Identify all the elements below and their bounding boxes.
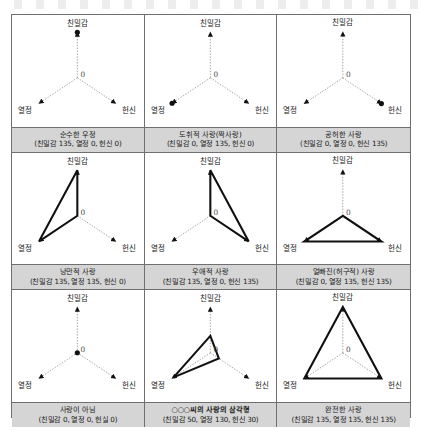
love-type-caption: 순수한 우정(친밀감 135, 열정 0, 헌신 0) <box>12 127 144 152</box>
axis-label-commitment: 헌신 <box>255 243 269 252</box>
love-triangle-diagram: 친밀감열정헌신0 <box>12 290 144 402</box>
love-type-caption: 도취적 사랑(짝사랑)(친밀감 0, 열정 135, 헌신 0) <box>145 127 277 152</box>
origin-label: 0 <box>213 70 218 79</box>
axis-label-intimacy: 친밀감 <box>333 155 354 165</box>
love-triangle-diagram: 친밀감열정헌신0 <box>277 153 410 265</box>
love-triangle-diagram: 친밀감열정헌신0 <box>145 15 277 127</box>
axis-label-passion: 열정 <box>284 243 298 253</box>
love-type-caption: 얼빠진(허구적) 사랑(친밀감 0, 열정 135, 헌신 135) <box>277 264 410 289</box>
love-type-cell: 친밀감열정헌신0순수한 우정(친밀감 135, 열정 0, 헌신 0) <box>12 15 145 153</box>
axis-label-intimacy: 친밀감 <box>199 293 220 303</box>
axis-label-intimacy: 친밀감 <box>67 18 88 28</box>
origin-label: 0 <box>81 70 86 79</box>
axis-label-passion: 열정 <box>151 242 165 252</box>
axis-label-passion: 열정 <box>151 380 165 390</box>
love-type-caption: 낭만적 사랑(친밀감 135, 열정 135, 헌신 0) <box>12 264 144 289</box>
love-type-values: (친밀감 0, 열정 135, 헌신 0) <box>146 139 276 149</box>
axis-label-intimacy: 친밀감 <box>67 156 88 166</box>
axis-label-commitment: 헌신 <box>389 381 403 390</box>
love-type-values: (친밀감 135, 열정 0, 헌신 135) <box>146 277 276 287</box>
love-triangle-shape <box>173 336 218 377</box>
axis-label-commitment: 헌신 <box>122 243 136 252</box>
axis-commitment <box>77 216 115 241</box>
scan-artifact <box>0 0 422 9</box>
origin-label: 0 <box>346 208 351 217</box>
love-type-values: (친밀감 135, 열정 0, 헌신 0) <box>13 139 143 149</box>
love-type-values: (친밀감 50, 열정 130, 헌신 30) <box>146 415 276 425</box>
love-type-title: 도취적 사랑(짝사랑) <box>146 130 276 140</box>
love-triangle-grid: 친밀감열정헌신0순수한 우정(친밀감 135, 열정 0, 헌신 0)친밀감열정… <box>11 14 411 418</box>
love-type-title: 우애적 사랑 <box>146 267 276 277</box>
love-triangle-diagram: 친밀감열정헌신0 <box>277 290 410 402</box>
axis-label-intimacy: 친밀감 <box>333 17 354 27</box>
origin-label: 0 <box>81 345 86 354</box>
axis-commitment <box>343 78 382 104</box>
axis-label-passion: 열정 <box>18 380 32 390</box>
love-type-values: (친밀감 135, 열정 135, 헌신 135) <box>278 415 409 425</box>
axis-passion <box>39 78 77 103</box>
love-triangle-diagram: 친밀감열정헌신0 <box>145 290 277 402</box>
love-type-title: 완전한 사랑 <box>278 405 409 415</box>
axis-label-passion: 열정 <box>151 105 165 115</box>
love-type-values: (친밀감 135, 열정 135, 헌신 0) <box>13 277 143 287</box>
love-type-caption: 공허한 사랑(친밀감 0, 열정 0, 헌신 135) <box>277 127 410 152</box>
value-marker <box>169 101 174 106</box>
love-type-cell: 친밀감열정헌신0얼빠진(허구적) 사랑(친밀감 0, 열정 135, 헌신 13… <box>277 153 410 291</box>
love-type-values: (친밀감 0, 열정 135, 헌신 135) <box>278 277 409 287</box>
love-type-caption: 우애적 사랑(친밀감 135, 열정 0, 헌신 135) <box>145 264 277 289</box>
love-type-caption: 사랑이 아님(친밀감 0, 열정 0, 헌실 0) <box>12 402 144 427</box>
love-type-cell: 친밀감열정헌신0우애적 사랑(친밀감 135, 열정 0, 헌신 135) <box>145 153 278 291</box>
axis-label-commitment: 헌신 <box>255 106 269 115</box>
love-type-values: (친밀감 0, 열정 0, 헌신 135) <box>278 139 409 149</box>
value-marker <box>75 351 80 356</box>
love-type-title: 낭만적 사랑 <box>13 267 143 277</box>
love-type-caption: ○○○씨의 사랑의 삼각형(친밀감 50, 열정 130, 헌신 30) <box>145 402 277 427</box>
axis-label-commitment: 헌신 <box>122 106 136 115</box>
love-type-title: ○○○씨의 사랑의 삼각형 <box>146 405 276 415</box>
axis-label-intimacy: 친밀감 <box>333 293 354 303</box>
origin-label: 0 <box>346 70 351 79</box>
axis-passion <box>39 353 77 378</box>
origin-label: 0 <box>213 345 218 354</box>
love-triangle-diagram: 친밀감열정헌신0 <box>277 15 410 127</box>
axis-passion <box>172 78 210 104</box>
love-triangle-shape <box>210 170 248 241</box>
love-type-title: 공허한 사랑 <box>278 130 409 140</box>
axis-commitment <box>210 353 248 379</box>
love-type-cell: 친밀감열정헌신0낭만적 사랑(친밀감 135, 열정 135, 헌신 0) <box>12 153 145 291</box>
love-triangle-shape <box>39 170 77 241</box>
love-type-cell: 친밀감열정헌신0○○○씨의 사랑의 삼각형(친밀감 50, 열정 130, 헌신… <box>145 290 278 427</box>
axis-passion <box>172 216 210 242</box>
love-triangle-figure-page: 친밀감열정헌신0순수한 우정(친밀감 135, 열정 0, 헌신 0)친밀감열정… <box>0 0 422 430</box>
axis-label-intimacy: 친밀감 <box>199 18 220 28</box>
origin-label: 0 <box>346 345 351 354</box>
love-triangle-shape <box>305 216 382 242</box>
axis-label-commitment: 헌신 <box>389 106 403 115</box>
axis-commitment <box>77 353 115 378</box>
love-triangle-diagram: 친밀감열정헌신0 <box>145 153 277 265</box>
love-type-cell: 친밀감열정헌신0완전한 사랑(친밀감 135, 열정 135, 헌신 135) <box>277 290 410 427</box>
love-triangle-diagram: 친밀감열정헌신0 <box>12 153 144 265</box>
origin-label: 0 <box>81 208 86 217</box>
axis-label-passion: 열정 <box>284 380 298 390</box>
origin-label: 0 <box>213 208 218 217</box>
value-marker <box>75 30 80 35</box>
love-type-cell: 친밀감열정헌신0도취적 사랑(짝사랑)(친밀감 0, 열정 135, 헌신 0) <box>145 15 278 153</box>
axis-commitment <box>210 78 248 104</box>
axis-passion <box>305 78 344 104</box>
axis-label-passion: 열정 <box>18 242 32 252</box>
love-type-title: 얼빠진(허구적) 사랑 <box>278 267 409 277</box>
axis-label-commitment: 헌신 <box>389 244 403 253</box>
love-type-cell: 친밀감열정헌신0공허한 사랑(친밀감 0, 열정 0, 헌신 135) <box>277 15 410 153</box>
love-type-title: 순수한 우정 <box>13 130 143 140</box>
axis-label-commitment: 헌신 <box>122 381 136 390</box>
axis-label-intimacy: 친밀감 <box>67 293 88 303</box>
axis-label-intimacy: 친밀감 <box>199 156 220 166</box>
love-type-values: (친밀감 0, 열정 0, 헌실 0) <box>13 415 143 425</box>
love-type-title: 사랑이 아님 <box>13 405 143 415</box>
axis-label-passion: 열정 <box>284 105 298 115</box>
love-type-cell: 친밀감열정헌신0사랑이 아님(친밀감 0, 열정 0, 헌실 0) <box>12 290 145 427</box>
love-triangle-diagram: 친밀감열정헌신0 <box>12 15 144 127</box>
value-marker <box>379 101 384 106</box>
love-type-caption: 완전한 사랑(친밀감 135, 열정 135, 헌신 135) <box>277 402 410 427</box>
